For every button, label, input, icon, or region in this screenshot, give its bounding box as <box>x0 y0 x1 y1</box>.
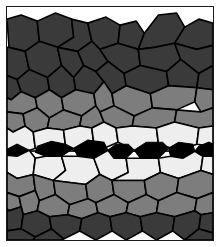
figure-frame: .g{stroke:#000000;stroke-width:1.6;strok… <box>6 6 214 241</box>
grain-structure-diagram: .g{stroke:#000000;stroke-width:1.6;strok… <box>7 7 213 240</box>
micrograph-figure: .g{stroke:#000000;stroke-width:1.6;strok… <box>0 0 220 247</box>
